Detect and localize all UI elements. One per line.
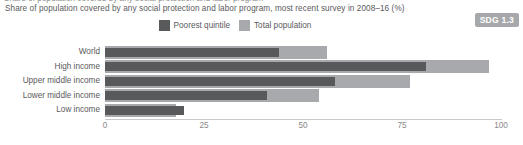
sdg-badge: SDG 1.3: [475, 13, 519, 27]
category-label-upper-middle-income: Upper middle income: [0, 75, 100, 87]
bar-track: [105, 103, 501, 117]
x-axis-tick-0: 0: [103, 121, 108, 130]
bar-track: [105, 74, 501, 88]
legend-swatch-poorest-icon: [159, 20, 170, 31]
bar-row-low-income: Low income: [0, 103, 523, 117]
legend-label-poorest: Poorest quintile: [174, 21, 230, 30]
category-label-world: World: [0, 46, 100, 58]
bar-poorest-quintile-high-income: [105, 62, 426, 71]
x-axis-ticks: 0 25 50 75 100: [0, 121, 523, 135]
x-axis-tick-50: 50: [298, 121, 307, 130]
bar-poorest-quintile-low-income: [105, 106, 184, 115]
bar-poorest-quintile-lower-middle-income: [105, 91, 267, 100]
bar-poorest-quintile-world: [105, 48, 279, 57]
legend-item-total-population: Total population: [239, 20, 311, 31]
x-axis-tick-75: 75: [397, 121, 406, 130]
chart-figure: Share of population covered by any socia…: [0, 0, 523, 145]
bar-row-upper-middle-income: Upper middle income: [0, 74, 523, 88]
legend-label-total: Total population: [254, 21, 311, 30]
x-axis-line: [105, 119, 502, 120]
legend-item-poorest-quintile: Poorest quintile: [159, 20, 230, 31]
category-label-high-income: High income: [0, 61, 100, 73]
bar-track: [105, 45, 501, 59]
bar-track: [105, 89, 501, 103]
chart-legend: Poorest quintile Total population: [0, 20, 470, 31]
chart-title: Share of population covered by any socia…: [5, 4, 405, 13]
x-axis-tick-25: 25: [199, 121, 208, 130]
plot-area: World High income Upper middle income: [0, 45, 523, 145]
bar-row-high-income: High income: [0, 60, 523, 74]
legend-swatch-total-icon: [239, 20, 250, 31]
bar-poorest-quintile-upper-middle-income: [105, 77, 335, 86]
bar-track: [105, 60, 501, 74]
category-label-lower-middle-income: Lower middle income: [0, 90, 100, 102]
bar-row-lower-middle-income: Lower middle income: [0, 89, 523, 103]
category-label-low-income: Low income: [0, 104, 100, 116]
x-axis-tick-100: 100: [494, 121, 508, 130]
bar-rows: World High income Upper middle income: [0, 45, 523, 118]
bar-row-world: World: [0, 45, 523, 59]
